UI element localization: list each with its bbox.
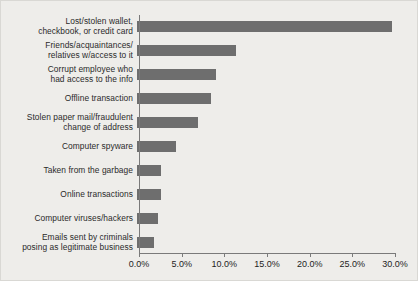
- chart-row: Lost/stolen wallet, checkbook, or credit…: [1, 15, 418, 39]
- chart-row: Taken from the garbage: [1, 159, 418, 183]
- bar-track: [137, 207, 418, 231]
- bar-track: [137, 15, 418, 39]
- x-axis-tick-mark: [182, 253, 183, 257]
- x-axis-tick-mark: [224, 253, 225, 257]
- bar: [137, 69, 216, 80]
- x-axis-tick-mark: [139, 253, 140, 257]
- category-label: Online transactions: [1, 190, 137, 200]
- bar-track: [137, 183, 418, 207]
- x-axis-tick-mark: [395, 253, 396, 257]
- x-axis-tick-mark: [267, 253, 268, 257]
- category-label: Friends/acquaintances/ relatives w/acces…: [1, 41, 137, 60]
- x-axis-tick-label: 10.0%: [212, 259, 238, 269]
- chart-row: Corrupt employee who had access to the i…: [1, 63, 418, 87]
- chart-row: Stolen paper mail/fraudulent change of a…: [1, 111, 418, 135]
- category-label: Offline transaction: [1, 94, 137, 104]
- category-label: Stolen paper mail/fraudulent change of a…: [1, 113, 137, 132]
- x-axis-tick-mark: [310, 253, 311, 257]
- bar: [137, 213, 158, 224]
- plot-area: Lost/stolen wallet, checkbook, or credit…: [1, 1, 418, 281]
- chart-row: Friends/acquaintances/ relatives w/acces…: [1, 39, 418, 63]
- x-axis-tick-mark: [352, 253, 353, 257]
- bar: [137, 117, 198, 128]
- bar-track: [137, 111, 418, 135]
- x-axis-tick-label: 30.0%: [382, 259, 408, 269]
- category-label: Taken from the garbage: [1, 166, 137, 176]
- bar-track: [137, 39, 418, 63]
- bar-track: [137, 63, 418, 87]
- category-label: Computer viruses/hackers: [1, 214, 137, 224]
- bar: [137, 165, 161, 176]
- x-axis-tick-label: 0.0%: [129, 259, 150, 269]
- bar-chart: Lost/stolen wallet, checkbook, or credit…: [0, 0, 418, 281]
- bar: [137, 93, 211, 104]
- bar: [137, 45, 236, 56]
- x-axis-tick-label: 5.0%: [171, 259, 192, 269]
- category-label: Corrupt employee who had access to the i…: [1, 65, 137, 84]
- chart-row: Online transactions: [1, 183, 418, 207]
- chart-row: Offline transaction: [1, 87, 418, 111]
- bar: [137, 141, 176, 152]
- y-axis-line: [139, 15, 140, 253]
- bar-track: [137, 87, 418, 111]
- bar-track: [137, 135, 418, 159]
- x-axis-tick-label: 25.0%: [340, 259, 366, 269]
- x-axis-tick-label: 15.0%: [254, 259, 280, 269]
- category-label: Lost/stolen wallet, checkbook, or credit…: [1, 17, 137, 36]
- bar-track: [137, 159, 418, 183]
- category-label: Emails sent by criminals posing as legit…: [1, 233, 137, 252]
- x-axis-tick-label: 20.0%: [297, 259, 323, 269]
- category-label: Computer spyware: [1, 142, 137, 152]
- chart-row: Computer spyware: [1, 135, 418, 159]
- bar: [137, 189, 161, 200]
- chart-row: Computer viruses/hackers: [1, 207, 418, 231]
- bar-track: [137, 231, 418, 255]
- chart-row: Emails sent by criminals posing as legit…: [1, 231, 418, 255]
- bar: [137, 21, 392, 32]
